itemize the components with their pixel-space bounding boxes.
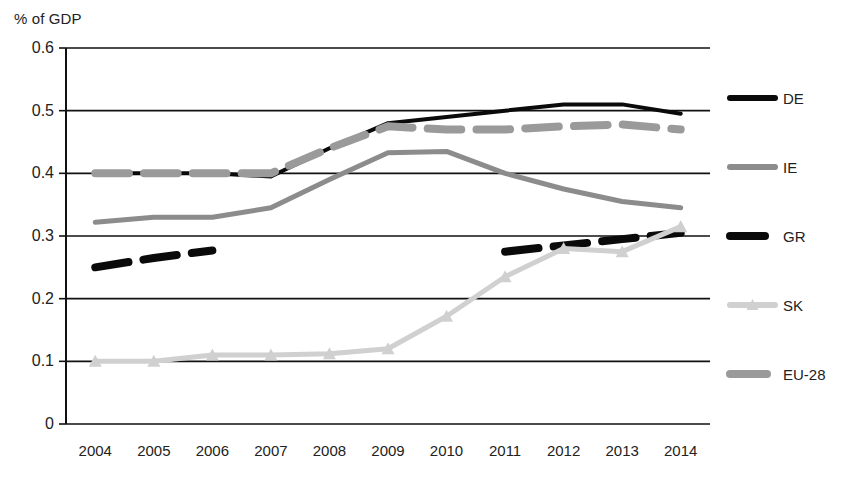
legend-label-eu-28: EU-28 [783, 366, 826, 383]
x-axis-tick-label: 2011 [489, 442, 521, 459]
x-axis-tick-label: 2006 [196, 442, 229, 459]
legend-label-gr: GR [783, 228, 806, 245]
x-axis-tick-label: 2013 [605, 442, 638, 459]
series-line [95, 104, 680, 176]
legend-label-sk: SK [783, 297, 803, 314]
legend-label-de: DE [783, 90, 804, 107]
chart-plot-area [0, 0, 853, 481]
series-line [95, 124, 680, 173]
series-line [95, 250, 212, 267]
series-de [95, 104, 680, 176]
y-axis-tick-label: 0.5 [8, 102, 54, 120]
series-line [95, 227, 680, 362]
series-eu-28 [95, 124, 680, 173]
x-axis-tick-label: 2012 [547, 442, 580, 459]
y-axis-tick-label: 0.6 [8, 39, 54, 57]
x-axis-tick-label: 2007 [254, 442, 287, 459]
y-axis-tick-label: 0.1 [8, 352, 54, 370]
series-sk [89, 220, 687, 367]
series-ie [95, 151, 680, 222]
x-axis-tick-label: 2014 [664, 442, 697, 459]
x-axis-tick-label: 2004 [79, 442, 112, 459]
chart-container: % of GDP 00.10.20.30.40.50.6 20042005200… [0, 0, 853, 481]
y-axis-tick-label: 0.4 [8, 164, 54, 182]
y-axis-tick-label: 0.2 [8, 290, 54, 308]
y-axis-tick-label: 0.3 [8, 227, 54, 245]
x-axis-tick-label: 2010 [430, 442, 463, 459]
x-axis-tick-label: 2008 [313, 442, 346, 459]
x-axis-tick-label: 2009 [371, 442, 404, 459]
x-axis-tick-label: 2005 [137, 442, 170, 459]
legend-swatch-group [730, 98, 775, 374]
series-line [95, 151, 680, 222]
legend-label-ie: IE [783, 159, 797, 176]
y-axis-tick-label: 0 [8, 415, 54, 433]
